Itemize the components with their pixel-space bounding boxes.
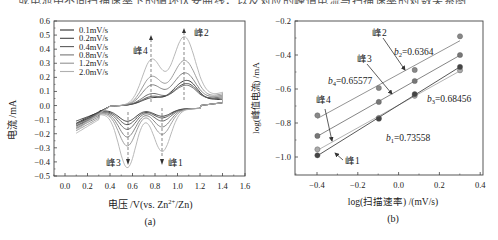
y-tick-label: −1.0	[276, 152, 291, 162]
data-point	[376, 99, 381, 104]
peak3-arrow-icon	[126, 159, 130, 165]
data-point	[315, 113, 320, 118]
data-point	[457, 34, 462, 39]
slope-b3-label: b3=0.68456	[427, 94, 471, 105]
x-tick-label: 0.4	[105, 181, 116, 191]
x-tick-label: −0.4	[309, 180, 325, 190]
y-tick-label: −0.4	[35, 157, 51, 167]
y-tick-label: 0.5	[39, 30, 50, 40]
data-point	[315, 133, 320, 138]
x-tick-label: 0.0	[60, 181, 71, 191]
cv-curve-0.8mV/s	[76, 73, 222, 137]
data-point	[412, 78, 417, 83]
plot-b-peak3-label: 峰3	[357, 54, 372, 64]
peak2-label: 峰2	[194, 28, 209, 38]
y-tick-label: 0.2	[39, 72, 50, 82]
panel-b-log-plot: −0.2−0.4−0.6−0.8−1.0 −0.4−0.20.00.20.4 峰…	[250, 16, 486, 225]
peak3-label: 峰3	[106, 158, 121, 168]
x-tick-label: −0.2	[350, 180, 365, 190]
y-tick-label: 0.0	[39, 101, 50, 111]
x-tick-label: 0.6	[127, 181, 138, 191]
plot-b-peak4-label: 峰4	[316, 95, 331, 105]
legend: 0.1mV/s0.2mV/s0.4mV/s0.8mV/s1.2mV/s2.0mV…	[60, 25, 108, 77]
y-tick-label: −0.8	[276, 118, 291, 128]
data-point	[412, 92, 417, 97]
slope-b4-label: b4=0.65577	[328, 76, 372, 87]
data-point	[376, 116, 381, 121]
x-tick-label: 1.6	[240, 181, 251, 191]
peak2-arrow-icon	[182, 28, 186, 33]
plot-a-x-axis-label: 电压 /V(vs. Zn2+/Zn)	[108, 198, 193, 211]
y-tick-label: 0.4	[39, 44, 50, 54]
data-point	[412, 67, 417, 72]
x-tick-label: 0.4	[475, 180, 486, 190]
plot-b-y-axis-label: log(峰值电流) /mA	[250, 62, 261, 134]
x-tick-label: 0.2	[82, 181, 93, 191]
data-point	[457, 52, 462, 57]
plot-b-x-axis-label: log(扫描速率) /(mV/s)	[348, 196, 438, 208]
data-point	[457, 64, 462, 69]
legend-item-label: 2.0mV/s	[79, 67, 108, 77]
y-tick-label: −0.6	[276, 84, 291, 94]
peak4-label: 峰4	[133, 46, 148, 56]
y-tick-label: 0.1	[39, 86, 50, 96]
x-tick-label: 0.8	[150, 181, 161, 191]
peak1-label: 峰1	[168, 158, 183, 168]
x-tick-label: 1.4	[217, 181, 228, 191]
y-tick-label: −0.1	[35, 115, 50, 125]
data-point	[315, 147, 320, 152]
slope-b1-label: b1=0.73558	[386, 133, 430, 144]
figure: 0.60.50.40.30.20.10.0−0.1−0.2−0.3−0.4−0.…	[0, 0, 498, 240]
y-tick-label: −0.3	[35, 143, 50, 153]
plot-b-peak2-label: 峰2	[372, 28, 387, 38]
y-tick-label: −0.2	[276, 16, 291, 26]
peak1-arrow-icon	[160, 159, 164, 165]
y-tick-label: 0.3	[39, 58, 50, 68]
peak4-arrow-icon	[149, 35, 153, 40]
y-tick-label: 0.6	[39, 16, 50, 26]
y-tick-label: −0.2	[35, 129, 50, 139]
panel-b-caption: (b)	[387, 213, 399, 225]
slope-b2-label: b2=0.6364	[394, 47, 434, 58]
data-point	[376, 85, 381, 90]
x-tick-label: 0.2	[434, 180, 445, 190]
panel-a-caption: (a)	[144, 216, 155, 228]
x-tick-label: 0.0	[393, 180, 404, 190]
plot-a-y-axis-label: 电流 /mA	[6, 99, 18, 140]
plot-b-peak1-label: 峰1	[345, 156, 360, 166]
x-tick-label: 1.2	[195, 181, 206, 191]
y-tick-label: −0.5	[35, 171, 50, 181]
x-tick-label: 1.0	[172, 181, 183, 191]
data-point	[315, 153, 320, 158]
y-tick-label: −0.4	[276, 50, 292, 60]
panel-a-cv-plot: 0.60.50.40.30.20.10.0−0.1−0.2−0.3−0.4−0.…	[6, 16, 250, 228]
